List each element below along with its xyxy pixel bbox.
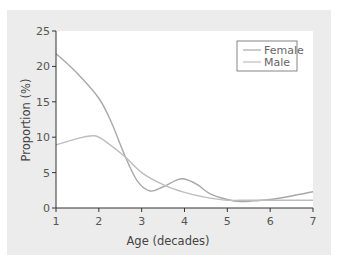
x-tick-label: 3 [138, 215, 145, 228]
y-tick-label: 20 [36, 60, 50, 73]
y-axis-ticks: 0510152025 [36, 25, 56, 215]
legend-label-male: Male [264, 56, 290, 69]
x-tick-label: 2 [95, 215, 102, 228]
line-chart: 0510152025 1234567 Age (decades) Proport… [0, 0, 340, 265]
y-tick-label: 10 [36, 131, 50, 144]
x-tick-label: 5 [224, 215, 231, 228]
x-axis-title: Age (decades) [127, 234, 210, 248]
y-tick-label: 5 [43, 167, 50, 180]
x-tick-label: 7 [310, 215, 317, 228]
x-tick-label: 1 [53, 215, 60, 228]
x-tick-label: 4 [181, 215, 188, 228]
x-tick-label: 6 [267, 215, 274, 228]
y-tick-label: 15 [36, 96, 50, 109]
legend: Female Male [237, 41, 304, 71]
x-axis-ticks: 1234567 [53, 208, 317, 228]
y-axis-title: Proportion (%) [19, 79, 33, 162]
y-tick-label: 0 [43, 202, 50, 215]
y-tick-label: 25 [36, 25, 50, 38]
